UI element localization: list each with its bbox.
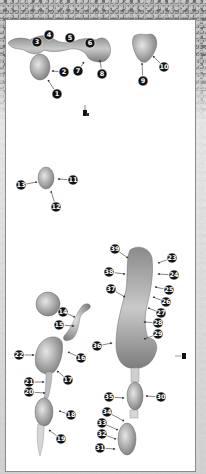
callout-21: 21: [24, 377, 44, 387]
shape-upper-left: [36, 292, 60, 316]
callout-arrow: [158, 260, 167, 263]
callout-arrow: [52, 71, 59, 72]
callout-9: 9: [138, 63, 148, 86]
callout-arrow: [49, 430, 57, 436]
callout-arrow: [26, 182, 37, 184]
callout-number: 38: [104, 268, 114, 276]
shape-11: [38, 167, 54, 189]
shape-10: [133, 34, 157, 62]
callout-31: 31: [95, 443, 115, 453]
callout-16: 16: [68, 352, 86, 363]
callout-number: 22: [14, 351, 23, 359]
callout-5: 5: [65, 33, 75, 43]
callout-number: 31: [95, 444, 105, 452]
callout-number: 16: [76, 354, 86, 362]
callout-28: 28: [144, 318, 163, 328]
callout-number: 27: [156, 309, 165, 317]
callout-20: 20: [24, 387, 45, 397]
callout-number: 9: [141, 77, 146, 85]
callout-33: 33: [97, 418, 118, 430]
callout-number: 6: [88, 39, 93, 47]
callout-arrow: [112, 415, 124, 421]
callout-number: 7: [76, 67, 81, 75]
callout-arrow: [116, 292, 125, 297]
pointer-marker-icon: [175, 353, 186, 359]
callout-arrow: [68, 352, 76, 356]
callout-number: 36: [92, 342, 102, 350]
callout-12: 12: [51, 191, 61, 212]
callout-number: 10: [159, 63, 169, 71]
callout-arrow: [81, 62, 84, 66]
callout-number: 23: [167, 254, 176, 262]
callout-11: 11: [58, 175, 78, 185]
callout-number: 4: [47, 31, 52, 39]
callout-number: 28: [153, 319, 163, 327]
callout-2: 2: [52, 67, 69, 77]
callout-35: 35: [104, 392, 124, 402]
shape-right-lower: [118, 423, 136, 455]
callout-arrow: [58, 179, 68, 180]
callout-number: 33: [97, 419, 106, 427]
callout-number: 39: [110, 245, 120, 253]
callout-23: 23: [158, 253, 177, 263]
callout-39: 39: [110, 244, 128, 258]
callout-25: 25: [155, 285, 174, 295]
callout-arrow: [105, 448, 115, 449]
callout-13: 13: [16, 180, 37, 190]
callout-17: 17: [57, 371, 73, 385]
callout-number: 20: [24, 388, 34, 396]
callout-number: 5: [68, 34, 73, 42]
callout-arrow: [102, 343, 112, 345]
callout-number: 37: [106, 285, 115, 293]
callout-number: 15: [54, 321, 64, 329]
callout-8: 8: [97, 60, 107, 79]
callout-arrow: [48, 80, 54, 89]
callout-37: 37: [106, 284, 125, 297]
shape-left-lower: [35, 398, 53, 426]
callout-38: 38: [104, 267, 125, 277]
callout-arrow: [158, 274, 169, 275]
callout-arrow: [153, 56, 160, 63]
callout-number: 26: [161, 298, 171, 306]
callout-36: 36: [92, 341, 112, 351]
callout-number: 19: [56, 435, 66, 443]
callout-number: 24: [169, 271, 179, 279]
shape-left-neck: [44, 372, 52, 398]
callout-27: 27: [148, 308, 166, 318]
callout-19: 19: [49, 430, 66, 444]
callout-3: 3: [32, 37, 42, 47]
callout-number: 30: [156, 393, 166, 401]
callout-number: 34: [102, 408, 112, 416]
callout-number: 18: [66, 411, 76, 419]
callout-number: 11: [68, 176, 78, 184]
shape-large-right: [116, 247, 157, 368]
shape-right-link: [130, 410, 138, 418]
callout-arrow: [148, 308, 156, 311]
callout-7: 7: [73, 62, 84, 76]
shape-left-body: [35, 337, 62, 374]
callout-4: 4: [44, 30, 54, 40]
callout-22: 22: [14, 350, 34, 360]
callout-24: 24: [158, 270, 179, 280]
callout-arrow: [107, 436, 116, 439]
callout-30: 30: [146, 392, 166, 402]
callout-number: 2: [62, 68, 67, 76]
callout-number: 35: [104, 393, 114, 401]
callout-number: 17: [63, 376, 72, 384]
callout-1: 1: [48, 80, 62, 99]
callout-number: 1: [55, 90, 60, 98]
callout-32: 32: [97, 429, 116, 439]
callout-10: 10: [153, 56, 169, 72]
callout-number: 8: [100, 70, 105, 78]
callout-layer: 1234567891011121314151617181920212223242…: [14, 30, 179, 453]
callout-number: 29: [153, 330, 163, 338]
callout-number: 3: [35, 38, 40, 46]
callout-arrow: [51, 191, 54, 202]
callout-14: 14: [58, 307, 75, 317]
callout-arrow: [153, 297, 161, 300]
shape-right-neck: [131, 368, 139, 382]
callout-26: 26: [153, 297, 171, 307]
callout-arrow: [59, 411, 66, 413]
callout-6: 6: [85, 38, 95, 48]
anatomy-diagram: 1234567891011121314151617181920212223242…: [0, 0, 206, 474]
